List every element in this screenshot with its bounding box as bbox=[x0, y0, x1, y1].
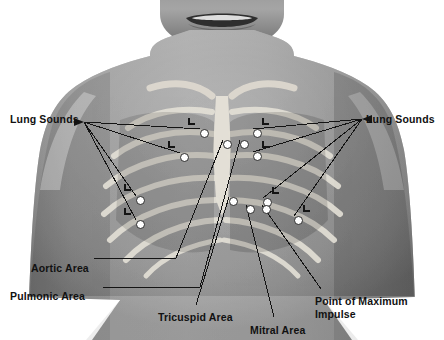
label-aortic-area: Aortic Area bbox=[31, 262, 89, 275]
anatomy-diagram: Lung Sounds Lung Sounds Aortic Area Pulm… bbox=[0, 0, 444, 340]
marker-lung-right-lowest bbox=[294, 216, 303, 225]
l-bracket-icon bbox=[272, 187, 279, 194]
l-bracket-icon bbox=[262, 141, 269, 148]
label-point-of-maximum-impulse-line1: Point of Maximum bbox=[315, 295, 408, 308]
label-lung-sounds-right: Lung Sounds bbox=[366, 113, 435, 126]
marker-mitral-point bbox=[246, 205, 255, 214]
marker-lung-left-lowest bbox=[136, 220, 145, 229]
marker-lung-left-lower bbox=[136, 196, 145, 205]
l-bracket-icon bbox=[188, 118, 195, 125]
label-lung-sounds-left: Lung Sounds bbox=[10, 113, 79, 126]
label-pulmonic-area: Pulmonic Area bbox=[10, 290, 85, 303]
marker-pmi-point bbox=[262, 205, 271, 214]
l-bracket-icon bbox=[303, 205, 310, 212]
leader-lines bbox=[0, 0, 444, 340]
marker-tricuspid-point bbox=[229, 197, 238, 206]
marker-lung-right-upper bbox=[253, 129, 262, 138]
marker-aortic-point bbox=[223, 140, 232, 149]
marker-lung-left-upper bbox=[200, 129, 209, 138]
l-bracket-icon bbox=[168, 141, 175, 148]
label-tricuspid-area: Tricuspid Area bbox=[158, 311, 233, 324]
l-bracket-icon bbox=[262, 118, 269, 125]
label-mitral-area: Mitral Area bbox=[250, 324, 306, 337]
label-point-of-maximum-impulse-line2: Impulse bbox=[315, 308, 356, 321]
l-bracket-icon bbox=[124, 208, 131, 215]
marker-lung-right-mid bbox=[253, 152, 262, 161]
l-bracket-icon bbox=[124, 184, 131, 191]
marker-lung-left-mid bbox=[180, 153, 189, 162]
marker-pulmonic-point bbox=[240, 140, 249, 149]
